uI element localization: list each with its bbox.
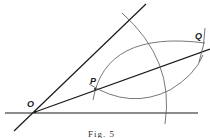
- construction-diagram: [0, 0, 210, 138]
- angle-side-line: [14, 4, 146, 131]
- lens-lower-arc: [89, 55, 203, 99]
- figure-caption: Fig. 5: [88, 130, 115, 138]
- label-O: O: [27, 100, 34, 109]
- label-Q: Q: [195, 32, 202, 41]
- large-arc-centered-O: [122, 13, 167, 124]
- point-O-dot: [34, 111, 36, 113]
- point-P-dot: [94, 88, 96, 90]
- label-P: P: [90, 77, 96, 86]
